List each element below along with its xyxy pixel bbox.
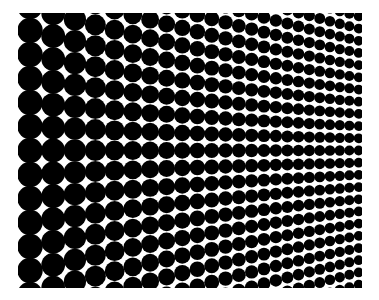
- halftone-dot: [281, 271, 293, 283]
- halftone-dot: [314, 171, 325, 182]
- halftone-dot: [270, 101, 282, 113]
- halftone-dot: [325, 16, 336, 27]
- halftone-dot: [232, 159, 246, 173]
- halftone-dot: [258, 114, 271, 127]
- halftone-dot: [174, 13, 190, 19]
- halftone-dot: [245, 280, 258, 288]
- halftone-dot: [344, 158, 354, 168]
- halftone-dot: [190, 126, 206, 142]
- halftone-dot: [18, 90, 43, 115]
- halftone-dot: [141, 85, 159, 103]
- halftone-dot: [293, 255, 305, 267]
- halftone-dot: [64, 183, 86, 205]
- halftone-dot: [158, 250, 175, 267]
- halftone-dot: [141, 179, 159, 197]
- halftone-dot: [174, 142, 190, 158]
- halftone-dot: [354, 36, 362, 46]
- halftone-dot: [270, 130, 282, 142]
- halftone-dot: [258, 55, 271, 68]
- halftone-dot: [158, 124, 175, 141]
- halftone-dot: [158, 287, 175, 288]
- halftone-dot: [258, 248, 271, 261]
- halftone-dot: [325, 210, 336, 221]
- halftone-dot: [335, 31, 345, 41]
- halftone-dot: [158, 52, 175, 69]
- halftone-dot: [258, 100, 271, 113]
- halftone-dot: [190, 278, 206, 288]
- halftone-dot: [105, 80, 125, 100]
- halftone-dot: [123, 277, 142, 288]
- halftone-dot: [41, 207, 65, 231]
- halftone-dot: [314, 66, 325, 77]
- halftone-dot: [190, 160, 206, 176]
- halftone-dot: [293, 214, 305, 226]
- halftone-dot: [335, 221, 345, 231]
- halftone-dot: [158, 232, 175, 249]
- halftone-dot: [85, 77, 106, 98]
- halftone-dot: [204, 127, 219, 142]
- halftone-dot: [141, 29, 159, 47]
- halftone-dot: [190, 58, 206, 74]
- halftone-dot: [293, 48, 305, 60]
- halftone-dot: [232, 237, 246, 251]
- halftone-dot: [281, 32, 293, 44]
- halftone-dot: [41, 47, 65, 71]
- halftone-dot: [174, 160, 190, 176]
- halftone-dot: [158, 160, 175, 177]
- halftone-dot: [325, 106, 336, 117]
- halftone-dot: [325, 68, 336, 79]
- halftone-dot: [344, 108, 354, 118]
- halftone-dot: [18, 66, 43, 91]
- halftone-dot: [325, 275, 336, 286]
- halftone-dot: [335, 247, 345, 257]
- halftone-dot: [293, 62, 305, 74]
- halftone-dot: [304, 104, 315, 115]
- halftone-dot: [270, 217, 282, 229]
- halftone-dot: [204, 225, 219, 240]
- halftone-dot: [325, 287, 336, 288]
- halftone-dot: [158, 214, 175, 231]
- halftone-dot: [85, 140, 106, 161]
- halftone-dot: [245, 38, 258, 51]
- halftone-dot: [314, 158, 325, 169]
- halftone-dot: [293, 13, 305, 18]
- halftone-dot: [293, 200, 305, 212]
- halftone-dot: [258, 85, 271, 98]
- artboard: Op-Art Halftone Dot Field Black discs on…: [0, 0, 379, 300]
- halftone-dot: [293, 172, 305, 184]
- halftone-dot: [218, 255, 232, 269]
- halftone-dot: [141, 104, 159, 122]
- halftone-dot: [270, 159, 282, 171]
- halftone-dot: [245, 205, 258, 218]
- halftone-dot: [344, 170, 354, 180]
- halftone-dot: [344, 133, 354, 143]
- halftone-dot: [325, 132, 336, 143]
- halftone-dot: [141, 48, 159, 66]
- halftone-dot: [64, 52, 86, 74]
- halftone-dot: [218, 287, 232, 288]
- halftone-dot: [314, 277, 325, 288]
- halftone-dot: [141, 13, 159, 29]
- halftone-dot: [123, 199, 142, 218]
- halftone-dot: [314, 39, 325, 50]
- halftone-dot: [354, 280, 362, 288]
- halftone-dot: [314, 264, 325, 275]
- halftone-dot: [314, 119, 325, 130]
- halftone-dot: [344, 59, 354, 69]
- halftone-dot: [325, 42, 336, 53]
- halftone-dot: [123, 238, 142, 257]
- halftone-dot: [218, 31, 232, 45]
- halftone-dot: [245, 129, 258, 142]
- halftone-dot: [85, 119, 106, 140]
- halftone-dot: [190, 177, 206, 193]
- halftone-dot: [314, 79, 325, 90]
- halftone-dot: [281, 116, 293, 128]
- halftone-dot: [270, 43, 282, 55]
- halftone-dot: [344, 208, 354, 218]
- halftone-dot: [245, 235, 258, 248]
- halftone-dot: [335, 133, 345, 143]
- halftone-dot: [141, 67, 159, 85]
- halftone-dot: [293, 90, 305, 102]
- halftone-dot: [304, 23, 315, 34]
- halftone-dot: [204, 94, 219, 109]
